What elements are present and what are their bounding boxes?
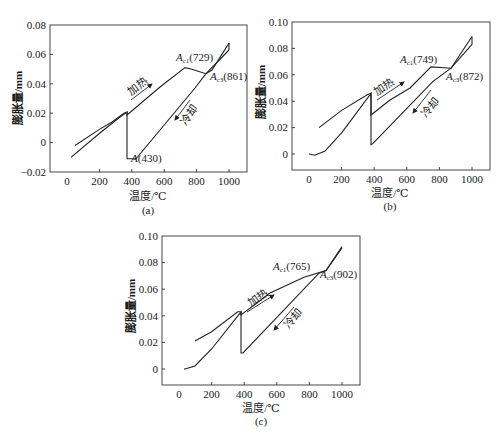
- y-tick-label: 0.04: [27, 78, 47, 90]
- y-tick-label: 0: [283, 148, 289, 160]
- x-tick-label: 200: [203, 388, 220, 400]
- y-tick-label: 0: [153, 363, 159, 375]
- plot-frame-c: [162, 236, 360, 385]
- chart-b: 0.10 0.08 0.06 0.04 0.02 0 0 200 400 600…: [254, 16, 490, 213]
- y-ticks-a: 0.08 0.06 0.04 0.02 0 −0.02: [21, 19, 53, 178]
- x-tick-label: 800: [431, 173, 448, 185]
- y-tick-label: 0.04: [139, 310, 159, 322]
- ac1-label: Ac1(749): [399, 53, 438, 67]
- y-tick-label: 0.08: [139, 256, 159, 268]
- cooling-label: 冷却: [418, 95, 441, 120]
- ac3-label: Ac3(872): [445, 70, 484, 84]
- x-tick-label: 1000: [461, 173, 484, 185]
- x-tick-label: 0: [64, 175, 70, 187]
- chart-a: 0.08 0.06 0.04 0.02 0 −0.02 0 200 400 60…: [11, 19, 248, 217]
- y-tick-label: 0.06: [269, 69, 289, 81]
- a-point-label: A(430): [130, 152, 162, 165]
- y-tick-label: 0.02: [139, 336, 158, 348]
- x-tick-label: 600: [269, 388, 286, 400]
- x-axis-label: 温度/℃: [129, 189, 166, 202]
- y-ticks-b: 0.10 0.08 0.06 0.04 0.02 0: [269, 16, 295, 160]
- chart-c: 0.10 0.08 0.06 0.04 0.02 0 0 200 400 600…: [124, 230, 360, 428]
- y-tick-label: 0.06: [139, 283, 159, 295]
- x-tick-label: 200: [91, 175, 108, 187]
- ac1-label: Ac1(765): [272, 260, 311, 274]
- y-tick-label: 0.02: [27, 107, 46, 119]
- plot-frame-b: [292, 22, 490, 170]
- x-axis-label: 温度/℃: [242, 401, 279, 414]
- cooling-curve: [71, 50, 229, 159]
- y-tick-label: 0.08: [269, 42, 289, 54]
- y-axis-label: 膨胀量/mm: [254, 65, 267, 120]
- x-tick-label: 600: [399, 173, 416, 185]
- x-tick-label: 400: [236, 388, 253, 400]
- chart-caption: (a): [142, 204, 155, 217]
- ac3-label: Ac3(902): [319, 268, 358, 282]
- chart-caption: (b): [384, 200, 397, 213]
- y-tick-label: 0.06: [27, 48, 47, 60]
- chart-caption: (c): [255, 415, 268, 428]
- ac1-label: Ac1(729): [175, 51, 214, 65]
- x-tick-label: 200: [333, 173, 350, 185]
- y-tick-label: 0.04: [269, 95, 289, 107]
- y-tick-label: 0.10: [269, 16, 289, 28]
- y-axis-label: 膨胀量/mm: [124, 279, 137, 334]
- x-tick-label: 1000: [331, 388, 354, 400]
- y-ticks-c: 0.10 0.08 0.06 0.04 0.02 0: [139, 230, 165, 375]
- x-tick-label: 0: [306, 173, 312, 185]
- heating-curve: [319, 37, 472, 128]
- cooling-curve: [184, 248, 342, 369]
- y-tick-label: 0.10: [139, 230, 159, 242]
- x-tick-label: 800: [301, 388, 318, 400]
- x-tick-label: 600: [156, 175, 173, 187]
- y-axis-label: 膨胀量/mm: [11, 71, 24, 126]
- x-tick-label: 1000: [218, 175, 241, 187]
- ac3-label: Ac3(861): [209, 70, 248, 84]
- x-tick-label: 800: [188, 175, 205, 187]
- y-tick-label: 0.02: [269, 121, 288, 133]
- x-axis-label: 温度/℃: [371, 186, 408, 199]
- y-tick-label: −0.02: [21, 166, 46, 178]
- cooling-label: 冷却: [178, 102, 200, 127]
- x-tick-label: 400: [124, 175, 141, 187]
- y-tick-label: 0: [41, 136, 47, 148]
- figure: 0.08 0.06 0.04 0.02 0 −0.02 0 200 400 60…: [0, 0, 504, 438]
- heating-label: 加热: [371, 75, 396, 97]
- y-tick-label: 0.08: [27, 19, 47, 31]
- heating-label: 加热: [125, 75, 150, 98]
- x-tick-label: 0: [176, 388, 182, 400]
- x-tick-label: 400: [366, 173, 383, 185]
